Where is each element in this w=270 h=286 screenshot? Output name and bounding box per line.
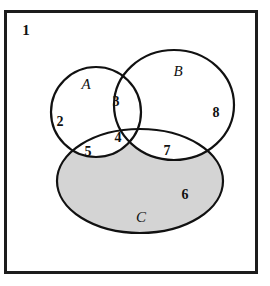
venn-diagram-figure: A B C 1 2 3 4 5 6 7 8 bbox=[0, 0, 270, 286]
region-label-universe-only: 1 bbox=[22, 22, 30, 38]
region-label-b-and-c: 7 bbox=[164, 143, 171, 158]
region-label-a-only: 2 bbox=[57, 114, 64, 129]
region-label-b-only: 8 bbox=[213, 105, 220, 120]
venn-diagram-canvas: A B C 1 2 3 4 5 6 7 8 bbox=[0, 0, 270, 286]
set-label-a: A bbox=[80, 76, 91, 92]
region-label-c-only: 6 bbox=[182, 187, 189, 202]
set-label-b: B bbox=[173, 63, 182, 79]
set-label-c: C bbox=[136, 209, 147, 225]
region-label-a-and-b-and-c: 4 bbox=[115, 130, 122, 145]
region-label-a-and-b: 3 bbox=[113, 94, 120, 109]
region-label-a-and-c: 5 bbox=[85, 144, 92, 159]
set-c-shaded-fill bbox=[0, 0, 270, 286]
